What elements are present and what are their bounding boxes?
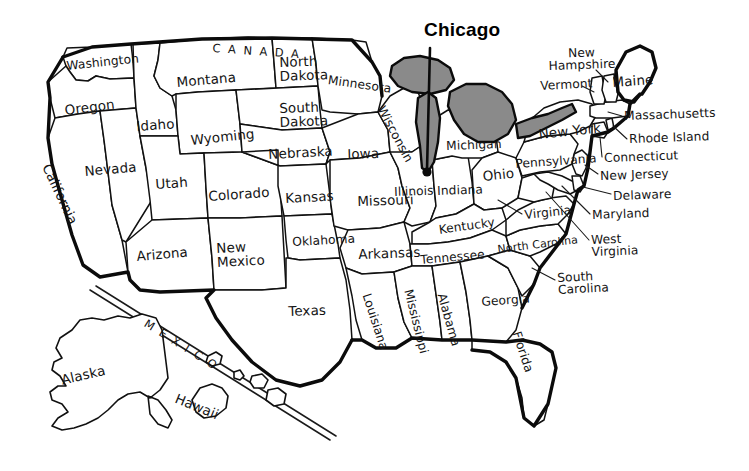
state-label-new-hampshire-line2: Hampshire bbox=[548, 58, 615, 73]
state-label-georgia[interactable]: Georgia bbox=[481, 293, 530, 309]
state-label-north-dakota-line2: Dakota bbox=[279, 68, 328, 83]
state-label-maine[interactable]: Maine bbox=[612, 73, 654, 90]
lake-superior-shape bbox=[390, 56, 454, 94]
state-label-arkansas[interactable]: Arkansas bbox=[358, 246, 421, 262]
state-label-kansas[interactable]: Kansas bbox=[285, 189, 334, 205]
state-label-texas[interactable]: Texas bbox=[288, 304, 326, 319]
chicago-callout-label: Chicago bbox=[424, 20, 500, 39]
state-label-west-virginia[interactable]: West Virginia bbox=[591, 232, 639, 258]
state-label-south-carolina-line2: Carolina bbox=[558, 282, 610, 297]
state-label-west-virginia-line2: Virginia bbox=[591, 245, 638, 259]
hawaii-island-4[interactable] bbox=[266, 388, 286, 406]
state-label-utah[interactable]: Utah bbox=[155, 176, 188, 192]
state-label-new-mexico-line2: Mexico bbox=[217, 253, 265, 269]
us-map-figure: CANADA MEXICO Washington Oregon Californ… bbox=[0, 0, 749, 471]
state-label-indiana[interactable]: Indiana bbox=[437, 183, 483, 197]
state-label-michigan[interactable]: Michigan bbox=[446, 138, 502, 152]
state-label-south-carolina[interactable]: South Carolina bbox=[557, 269, 609, 296]
state-label-vermont[interactable]: Vermont bbox=[540, 77, 593, 92]
chicago-marker-dot bbox=[422, 167, 431, 176]
state-label-idaho[interactable]: Idaho bbox=[136, 117, 175, 133]
state-label-south-dakota[interactable]: South Dakota bbox=[279, 100, 328, 129]
state-label-south-dakota-line2: Dakota bbox=[279, 114, 328, 129]
state-label-rhode-island[interactable]: Rhode Island bbox=[629, 130, 710, 145]
state-label-connecticut[interactable]: Connecticut bbox=[604, 149, 678, 164]
state-label-oklahoma[interactable]: Oklahoma bbox=[292, 233, 355, 249]
state-label-iowa[interactable]: Iowa bbox=[347, 147, 379, 162]
state-label-maryland[interactable]: Maryland bbox=[592, 207, 650, 221]
state-label-new-hampshire[interactable]: New Hampshire bbox=[548, 46, 616, 73]
state-label-illinois[interactable]: Illinois bbox=[394, 185, 434, 199]
state-label-delaware[interactable]: Delaware bbox=[613, 188, 672, 202]
hawaii-island-3[interactable] bbox=[250, 374, 268, 388]
state-label-new-mexico[interactable]: New Mexico bbox=[216, 240, 265, 269]
state-label-ohio[interactable]: Ohio bbox=[482, 167, 515, 184]
hawaii-island-2[interactable] bbox=[234, 370, 244, 380]
state-label-north-dakota[interactable]: North Dakota bbox=[279, 54, 328, 83]
state-label-massachusetts[interactable]: Massachusetts bbox=[624, 107, 716, 123]
state-label-new-jersey[interactable]: New Jersey bbox=[600, 168, 669, 183]
